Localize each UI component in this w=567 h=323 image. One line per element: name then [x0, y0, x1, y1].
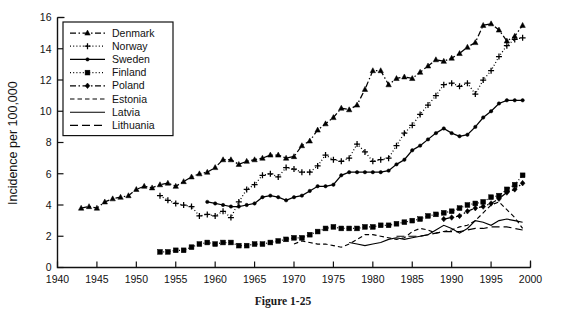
data-point-marker — [315, 229, 320, 234]
data-point-marker — [370, 224, 375, 229]
data-point-marker — [489, 195, 494, 200]
data-point-marker — [457, 83, 463, 89]
data-point-marker — [520, 22, 525, 27]
data-point-marker — [410, 218, 415, 223]
data-point-marker — [474, 125, 477, 128]
data-point-marker — [260, 242, 265, 247]
x-tick-label: 1970 — [282, 273, 306, 285]
data-point-marker — [86, 58, 89, 61]
data-point-marker — [197, 242, 202, 247]
data-point-marker — [204, 211, 210, 217]
y-tick-label: 10 — [40, 105, 52, 117]
data-point-marker — [300, 194, 303, 197]
x-tick-label: 1940 — [46, 273, 70, 285]
legend-label-norway: Norway — [112, 40, 148, 52]
data-point-marker — [253, 202, 256, 205]
data-point-marker — [330, 157, 336, 163]
data-point-marker — [465, 203, 470, 208]
data-point-marker — [229, 205, 232, 208]
data-point-marker — [489, 110, 492, 113]
figure-container: 0246810121416 19401945195019551960196519… — [0, 0, 567, 323]
data-point-marker — [505, 99, 508, 102]
y-tick-label: 14 — [40, 43, 52, 55]
data-point-marker — [346, 155, 352, 161]
data-point-marker — [411, 149, 414, 152]
data-point-marker — [189, 174, 194, 179]
data-point-marker — [291, 166, 297, 172]
legend-label-latvia: Latvia — [112, 106, 140, 118]
x-tick-label: 1995 — [479, 273, 503, 285]
data-point-marker — [355, 170, 358, 173]
data-point-marker — [465, 208, 470, 214]
data-point-marker — [338, 158, 344, 164]
data-point-marker — [458, 135, 461, 138]
data-point-marker — [324, 185, 327, 188]
data-point-marker — [229, 240, 234, 245]
data-point-marker — [340, 174, 343, 177]
data-point-marker — [521, 99, 524, 102]
legend-label-finland: Finland — [112, 66, 147, 78]
data-point-marker — [206, 200, 209, 203]
data-point-marker — [465, 44, 470, 49]
data-point-marker — [181, 248, 186, 253]
data-point-marker — [213, 202, 216, 205]
data-point-marker — [197, 171, 202, 176]
data-point-marker — [165, 249, 170, 254]
data-point-marker — [244, 186, 250, 192]
x-tick-label: 1975 — [322, 273, 346, 285]
data-point-marker — [520, 180, 525, 186]
data-point-marker — [158, 249, 163, 254]
data-point-marker — [417, 111, 423, 117]
data-point-marker — [426, 138, 429, 141]
x-tick-label: 1990 — [440, 273, 464, 285]
data-point-marker — [362, 149, 368, 155]
incidence-line-chart: 0246810121416 19401945195019551960196519… — [0, 0, 567, 323]
data-point-marker — [307, 232, 312, 237]
data-point-marker — [473, 40, 478, 45]
data-point-marker — [449, 80, 455, 86]
data-point-marker — [165, 197, 171, 203]
data-point-marker — [504, 43, 510, 49]
data-point-marker — [221, 203, 224, 206]
data-point-marker — [513, 99, 516, 102]
data-point-marker — [346, 107, 351, 112]
data-point-marker — [402, 220, 407, 225]
x-tick-label: 1985 — [401, 273, 425, 285]
data-point-marker — [363, 224, 368, 229]
data-point-marker — [110, 196, 115, 201]
data-point-marker — [378, 157, 384, 163]
y-tick-label: 8 — [46, 136, 52, 148]
data-point-marker — [196, 213, 202, 219]
data-point-marker — [205, 240, 210, 245]
data-point-marker — [307, 169, 313, 175]
data-point-marker — [252, 242, 257, 247]
data-point-marker — [236, 199, 242, 205]
data-point-marker — [402, 74, 407, 79]
data-point-marker — [457, 213, 462, 219]
data-point-marker — [363, 170, 366, 173]
x-tick-label: 1960 — [203, 273, 227, 285]
data-point-marker — [433, 57, 438, 62]
x-tick-label: 1965 — [243, 273, 267, 285]
series-line — [349, 219, 522, 246]
data-point-marker — [449, 215, 454, 221]
data-point-marker — [339, 105, 344, 110]
data-point-marker — [449, 209, 454, 214]
data-point-marker — [442, 127, 445, 130]
data-point-marker — [355, 226, 360, 231]
data-point-marker — [488, 21, 493, 26]
data-point-marker — [395, 163, 398, 166]
data-point-marker — [284, 199, 287, 202]
y-tick-label: 0 — [46, 261, 52, 273]
data-point-marker — [379, 170, 382, 173]
data-point-marker — [387, 169, 390, 172]
data-point-marker — [267, 171, 273, 177]
data-point-marker — [284, 237, 289, 242]
data-point-marker — [371, 170, 374, 173]
chart-legend: DenmarkNorwaySwedenFinlandPolandEstoniaL… — [63, 22, 173, 136]
data-point-marker — [292, 195, 295, 198]
data-point-marker — [393, 143, 399, 149]
data-point-marker — [339, 226, 344, 231]
data-point-marker — [212, 165, 217, 170]
data-point-marker — [244, 243, 249, 248]
